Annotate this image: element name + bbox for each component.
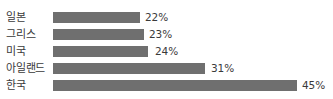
bar-track: 22% <box>53 9 333 26</box>
bar-korea <box>53 80 297 91</box>
bar-row: 그리스 23% <box>0 26 333 43</box>
category-label-korea: 한국 <box>6 77 26 94</box>
value-label-ireland: 31% <box>211 60 234 77</box>
horizontal-bar-chart: 일본 22% 그리스 23% 미국 24% 아일랜드 31% <box>0 0 333 99</box>
bar-row: 한국 45% <box>0 77 333 94</box>
bar-track: 23% <box>53 26 333 43</box>
bar-japan <box>53 12 140 23</box>
bar-row: 미국 24% <box>0 43 333 60</box>
chart-title <box>0 0 333 7</box>
bar-usa <box>53 46 148 57</box>
category-label-ireland: 아일랜드 <box>6 60 45 77</box>
bar-rows-container: 일본 22% 그리스 23% 미국 24% 아일랜드 31% <box>0 9 333 94</box>
value-label-korea: 45% <box>302 77 325 94</box>
bar-track: 24% <box>53 43 333 60</box>
value-label-usa: 24% <box>155 43 178 60</box>
value-label-greece: 23% <box>149 26 172 43</box>
bar-track: 45% <box>53 77 333 94</box>
bar-greece <box>53 29 144 40</box>
bar-row: 일본 22% <box>0 9 333 26</box>
category-label-usa: 미국 <box>6 43 26 60</box>
value-label-japan: 22% <box>145 9 168 26</box>
category-label-japan: 일본 <box>6 9 26 26</box>
bar-track: 31% <box>53 60 333 77</box>
bar-ireland <box>53 63 205 74</box>
category-label-greece: 그리스 <box>6 26 35 43</box>
bar-row: 아일랜드 31% <box>0 60 333 77</box>
